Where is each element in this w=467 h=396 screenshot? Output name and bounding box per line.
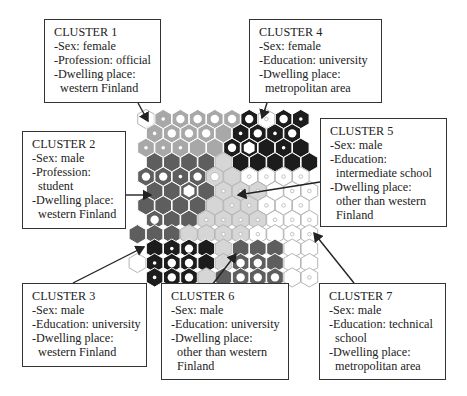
cluster-title: CLUSTER 6 [171,289,280,303]
cluster-title: CLUSTER 7 [329,289,437,303]
cluster-5-label-box: CLUSTER 5 -Sex: male -Education: interme… [320,118,447,227]
cluster-title: CLUSTER 5 [330,124,438,138]
arrow-cluster-3 [73,247,144,283]
arrow-cluster-1 [138,103,148,121]
arrow-cluster-5 [238,182,320,195]
arrow-cluster-6 [212,254,236,285]
cluster-title: CLUSTER 4 [259,25,373,39]
cluster-title: CLUSTER 2 [32,137,117,151]
cluster-3-label-box: CLUSTER 3 -Sex: male -Education: univers… [22,283,147,367]
arrow-cluster-4 [262,103,267,118]
cluster-title: CLUSTER 1 [54,25,152,39]
cluster-title: CLUSTER 3 [32,289,138,303]
arrow-cluster-7 [314,233,354,283]
cluster-2-label-box: CLUSTER 2 -Sex: male -Profession: studen… [22,131,126,229]
cluster-1-label-box: CLUSTER 1 -Sex: female -Profession: offi… [44,19,161,103]
cluster-6-label-box: CLUSTER 6 -Sex: male -Education: univers… [161,283,289,380]
cluster-7-label-box: CLUSTER 7 -Sex: male -Education: technic… [319,283,446,380]
cluster-4-label-box: CLUSTER 4 -Sex: female -Education: unive… [249,19,382,103]
